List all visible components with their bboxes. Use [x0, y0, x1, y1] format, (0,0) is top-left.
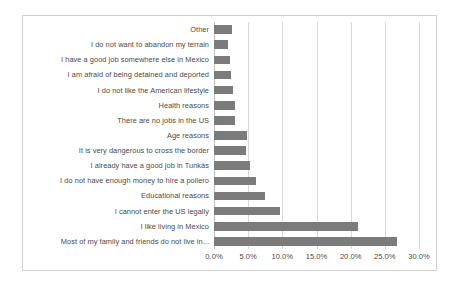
bar: [214, 25, 232, 34]
bar-row: I like living in Mexico: [214, 219, 419, 234]
bar-row: I already have a good job in Tunkás: [214, 158, 419, 173]
bar-row: I have a good job somewhere else in Mexi…: [214, 52, 419, 67]
bar-row: Other: [214, 22, 419, 37]
category-label: Most of my family and friends do not liv…: [61, 234, 214, 249]
bar: [214, 237, 397, 246]
x-tick-label: 25.0%: [374, 252, 396, 261]
plot-area: OtherI do not want to abandon my terrain…: [214, 22, 419, 249]
bar: [214, 40, 228, 49]
x-tick-label: 20.0%: [340, 252, 362, 261]
bar: [214, 131, 247, 140]
category-label: There are no jobs in the US: [117, 113, 214, 128]
bar: [214, 207, 280, 216]
bar: [214, 56, 230, 65]
chart-frame: OtherI do not want to abandon my terrain…: [22, 15, 437, 271]
category-label: I do not want to abandon my terrain: [91, 37, 214, 52]
bar: [214, 116, 235, 125]
bar-rows: OtherI do not want to abandon my terrain…: [214, 22, 419, 249]
bar: [214, 222, 358, 231]
category-label: I already have a good job in Tunkás: [91, 158, 214, 173]
bar-row: I do not like the American lifestyle: [214, 83, 419, 98]
bar: [214, 161, 250, 170]
bar-row: Most of my family and friends do not liv…: [214, 234, 419, 249]
category-label: I do not like the American lifestyle: [98, 83, 214, 98]
category-label: I like living in Mexico: [140, 219, 214, 234]
bar-row: Educational reasons: [214, 188, 419, 203]
category-label: Age reasons: [167, 128, 214, 143]
category-label: It is very dangerous to cross the border: [79, 143, 214, 158]
x-tick-label: 15.0%: [306, 252, 328, 261]
bar: [214, 192, 265, 201]
x-tick-label: 30.0%: [408, 252, 430, 261]
bar-row: I cannot enter the US legally: [214, 204, 419, 219]
bar-row: It is very dangerous to cross the border: [214, 143, 419, 158]
bar-row: Age reasons: [214, 128, 419, 143]
bar: [214, 177, 256, 186]
x-tick-label: 5.0%: [240, 252, 257, 261]
x-tick-label: 0.0%: [205, 252, 222, 261]
category-label: Health reasons: [159, 98, 214, 113]
bar-row: I do not have enough money to hire a pol…: [214, 173, 419, 188]
category-label: I have a good job somewhere else in Mexi…: [61, 52, 214, 67]
category-label: I cannot enter the US legally: [115, 204, 214, 219]
bar: [214, 86, 233, 95]
bar: [214, 101, 235, 110]
bar: [214, 71, 231, 80]
category-label: I am afraid of being detained and deport…: [68, 67, 214, 82]
bar-row: There are no jobs in the US: [214, 113, 419, 128]
gridline-300: [419, 22, 420, 249]
bar-row: I do not want to abandon my terrain: [214, 37, 419, 52]
category-label: Other: [190, 22, 214, 37]
category-label: I do not have enough money to hire a pol…: [60, 173, 214, 188]
x-axis-tick-labels: 0.0%5.0%10.0%15.0%20.0%25.0%30.0%: [214, 252, 419, 266]
x-tick-label: 10.0%: [272, 252, 294, 261]
category-label: Educational reasons: [141, 188, 214, 203]
bar-row: Health reasons: [214, 98, 419, 113]
bar: [214, 146, 246, 155]
bar-row: I am afraid of being detained and deport…: [214, 67, 419, 82]
